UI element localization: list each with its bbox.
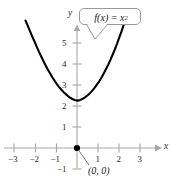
x-axis-label: x xyxy=(164,142,168,152)
parabola-figure: f(x) = x2 x y −3 −2 −1 1 2 3 5 4 3 2 1 −… xyxy=(0,0,173,185)
parabola-curve xyxy=(26,21,125,101)
y-tick-label-2: 2 xyxy=(62,102,67,111)
x-tick-label--3: −3 xyxy=(8,155,18,164)
x-tick-label-3: 3 xyxy=(138,155,143,164)
origin-point-label: (0, 0) xyxy=(88,166,110,176)
x-tick-label--1: −1 xyxy=(51,155,61,164)
function-callout-box: f(x) = x2 xyxy=(79,8,141,25)
y-tick-label-1: 1 xyxy=(62,123,67,132)
callout-tail-icon xyxy=(86,24,108,40)
origin-leader-line xyxy=(79,150,90,165)
x-tick-label-1: 1 xyxy=(96,155,101,164)
callout-args: (x) = x xyxy=(97,12,124,23)
y-tick-label-5: 5 xyxy=(62,39,67,48)
x-tick-label-2: 2 xyxy=(117,155,122,164)
x-tick-label--2: −2 xyxy=(30,155,40,164)
x-axis xyxy=(4,145,162,152)
y-axis-label: y xyxy=(68,9,72,19)
y-tick-label--1: −1 xyxy=(57,165,67,174)
y-tick-label-3: 3 xyxy=(62,81,67,90)
y-tick-label-4: 4 xyxy=(62,60,67,69)
